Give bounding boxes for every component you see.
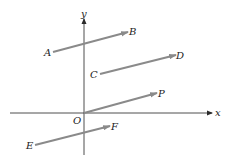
vector-diagram: y x O A B C D P E F [0,0,227,163]
origin-label: O [73,115,81,126]
vector-ef [35,126,110,145]
x-axis-label: x [215,107,221,118]
diagram-svg: y x O A B C D P E F [0,0,227,163]
point-label-b: B [128,26,136,37]
point-label-f: F [110,121,119,132]
point-label-a: A [43,47,51,58]
vector-ab [53,32,128,52]
point-label-e: E [25,140,34,151]
point-label-d: D [175,50,184,61]
y-axis-label: y [80,8,87,19]
point-label-p: P [157,88,165,99]
vector-op [84,93,157,113]
point-label-c: C [90,69,98,80]
vector-cd [100,55,176,74]
